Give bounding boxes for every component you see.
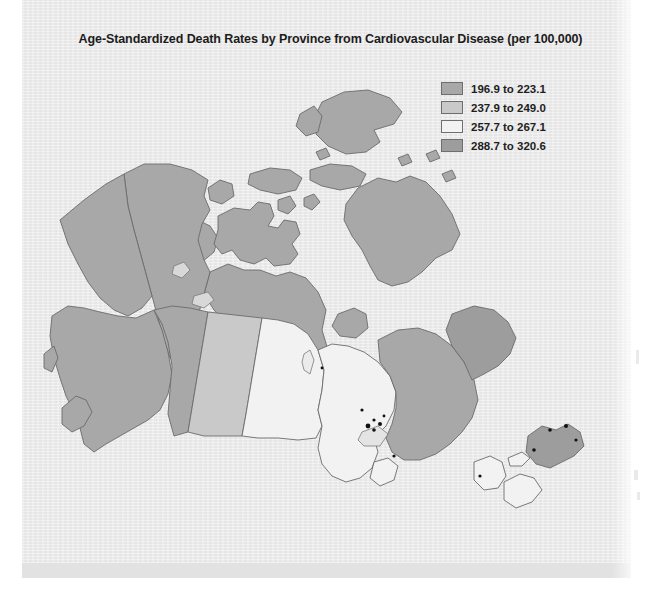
legend-label: 196.9 to 223.1 xyxy=(471,83,546,95)
city-dot xyxy=(532,448,536,452)
city-dot xyxy=(392,454,395,457)
legend-label: 257.7 to 267.1 xyxy=(471,121,546,133)
map-region-southern-ontario[interactable] xyxy=(370,458,398,486)
region-shape-southampton-island xyxy=(332,308,368,338)
legend-swatch xyxy=(441,120,463,133)
map-region-new-brunswick[interactable] xyxy=(474,456,506,490)
city-dot xyxy=(360,408,363,411)
city-dot xyxy=(478,474,481,477)
city-dot xyxy=(372,418,375,421)
legend-label: 288.7 to 320.6 xyxy=(471,140,546,152)
region-shape-arctic-islet-3 xyxy=(442,170,456,182)
map-region-nova-scotia[interactable] xyxy=(504,474,542,508)
city-dot xyxy=(378,422,382,426)
legend-row[interactable]: 288.7 to 320.6 xyxy=(441,136,591,155)
region-shape-prince-patrick xyxy=(208,180,234,204)
region-shape-arctic-islet-2 xyxy=(398,154,412,166)
page-right-shade xyxy=(612,0,631,578)
city-dot xyxy=(366,424,371,429)
region-shape-devon-island xyxy=(310,164,366,190)
legend-row[interactable]: 196.9 to 223.1 xyxy=(441,79,591,98)
legend-row[interactable]: 257.7 to 267.1 xyxy=(441,117,591,136)
map-region-british-columbia[interactable] xyxy=(50,306,172,452)
region-shape-melville-island xyxy=(248,168,302,194)
region-shape-baffin-island xyxy=(344,176,460,286)
city-dot xyxy=(383,415,386,418)
legend-swatch xyxy=(441,139,463,152)
scan-artifact xyxy=(636,350,639,364)
map-legend: 196.9 to 223.1 237.9 to 249.0 257.7 to 2… xyxy=(441,79,591,155)
scan-artifact xyxy=(637,492,640,500)
map-region-prince-edward-island[interactable] xyxy=(508,452,530,466)
region-shape-arctic-islet-1 xyxy=(426,150,440,162)
scan-artifact xyxy=(634,470,638,480)
region-shape-bathurst-island xyxy=(278,196,296,214)
region-shape-arctic-islet-4 xyxy=(316,148,330,160)
city-dot xyxy=(548,428,552,432)
legend-swatch xyxy=(441,82,463,95)
map-region-newfoundland-island[interactable] xyxy=(526,424,584,468)
region-shape-ellesmere-island xyxy=(314,90,402,154)
city-dot xyxy=(564,424,568,428)
legend-row[interactable]: 237.9 to 249.0 xyxy=(441,98,591,117)
city-dot xyxy=(321,367,324,370)
legend-label: 237.9 to 249.0 xyxy=(471,102,546,114)
city-dot xyxy=(372,428,376,432)
page-title: Age-Standardized Death Rates by Province… xyxy=(0,32,661,46)
region-shape-cornwallis-island xyxy=(304,194,320,210)
legend-swatch xyxy=(441,101,463,114)
region-shape-axel-heiberg xyxy=(296,106,322,136)
city-dot xyxy=(574,438,577,441)
